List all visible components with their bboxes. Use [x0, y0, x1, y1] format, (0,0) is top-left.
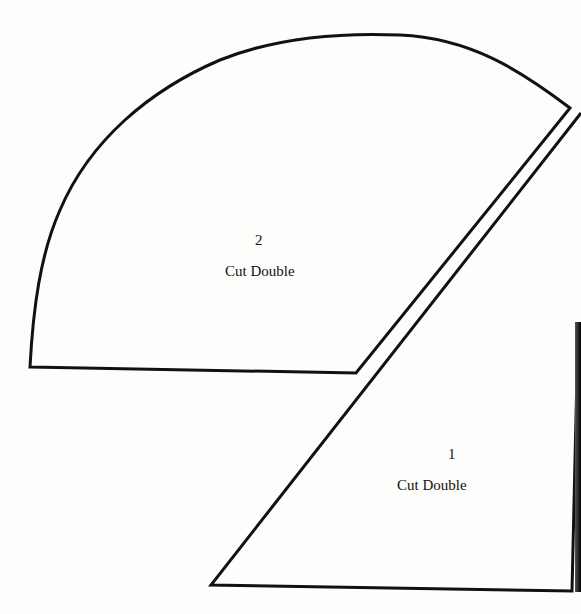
piece-1-instruction: Cut Double — [397, 477, 467, 494]
pattern-pieces-drawing — [0, 0, 581, 614]
pattern-piece-1-outline — [211, 113, 581, 591]
pattern-page: 2 Cut Double 1 Cut Double — [0, 0, 581, 614]
piece-2-number: 2 — [255, 232, 263, 249]
pattern-piece-2-outline — [30, 34, 570, 373]
piece-1-number: 1 — [448, 446, 456, 463]
piece-2-instruction: Cut Double — [225, 263, 295, 280]
page-binding-shadow — [575, 322, 581, 592]
